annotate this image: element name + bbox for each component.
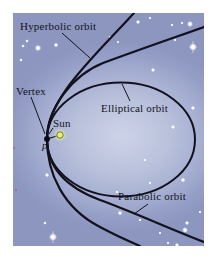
star-core: [186, 222, 188, 224]
star-core: [192, 107, 194, 109]
star-core: [26, 40, 28, 42]
star-core: [181, 22, 182, 23]
elliptical-orbit-label: Elliptical orbit: [101, 102, 168, 114]
star-core: [20, 59, 22, 61]
star-core: [152, 69, 154, 71]
hyperbolic-orbit-label: Hyperbolic orbit: [20, 20, 96, 32]
star-core: [184, 229, 186, 231]
ellipse-curve: [47, 83, 195, 197]
vertex-label: Vertex: [16, 85, 46, 97]
red-speck: [13, 147, 15, 149]
elliptical-orbit-pointer: [122, 84, 130, 101]
star-core: [119, 212, 121, 214]
starfield: [13, 16, 202, 246]
red-speck: [15, 189, 17, 191]
star-core: [182, 179, 184, 181]
star-core: [176, 244, 178, 246]
sun-label: Sun: [53, 117, 71, 129]
star-core: [46, 174, 48, 176]
star-core: [191, 45, 194, 48]
parabolic-orbit-pointer: [134, 204, 148, 214]
star-core: [22, 45, 24, 47]
star-core: [167, 242, 168, 243]
p-label: p: [41, 139, 48, 151]
starfield-photo: Hyperbolic orbit Vertex Sun p Elliptical…: [13, 13, 204, 246]
star-core: [51, 235, 54, 238]
sun-icon: [53, 128, 67, 142]
star-core: [149, 182, 150, 183]
star-core: [171, 24, 172, 25]
parabolic-orbit-label: Parabolic orbit: [118, 190, 186, 202]
orbits-svg: Hyperbolic orbit Vertex Sun p Elliptical…: [13, 13, 204, 246]
star-core: [37, 47, 40, 50]
star-core: [172, 126, 174, 128]
star-core: [159, 232, 160, 233]
star-core: [44, 222, 46, 224]
star-core: [144, 159, 145, 160]
star-core: [149, 17, 150, 18]
star-core: [137, 21, 139, 23]
vertex-pointer: [31, 97, 45, 134]
star-core: [117, 41, 118, 42]
hyperbolic-orbit-pointer: [62, 33, 90, 58]
star-core: [189, 23, 192, 26]
star-core: [199, 211, 200, 212]
star-core: [139, 219, 140, 220]
star-core: [55, 44, 57, 46]
star-core: [174, 39, 175, 40]
orbits-figure: Hyperbolic orbit Vertex Sun p Elliptical…: [0, 0, 216, 260]
parabola-curve: [47, 27, 204, 242]
